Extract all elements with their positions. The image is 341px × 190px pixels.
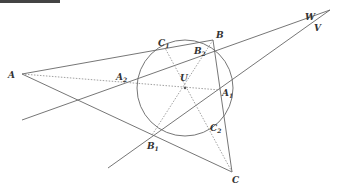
line-through-A2-to-W — [22, 10, 330, 120]
dashed-C-C1 — [165, 48, 232, 172]
label-A: A — [7, 70, 15, 80]
label-A1: A1 — [221, 88, 233, 99]
side-AB — [22, 40, 213, 74]
label-A2: A2 — [115, 72, 127, 83]
label-V: V — [314, 23, 322, 33]
label-C1: C1 — [158, 38, 169, 49]
label-B: B — [215, 30, 224, 40]
label-C: C — [232, 175, 240, 185]
side-AC — [22, 74, 232, 172]
label-B2: B2 — [193, 46, 206, 57]
top-bar — [0, 0, 60, 3]
label-B1: B1 — [146, 141, 159, 152]
label-U: U — [180, 73, 189, 83]
label-W: W — [305, 12, 316, 22]
geometry-diagram: A B C U W V A1 B1 C1 A2 B2 C2 — [0, 0, 341, 190]
center-point-U — [184, 87, 186, 89]
label-C2: C2 — [210, 123, 221, 134]
